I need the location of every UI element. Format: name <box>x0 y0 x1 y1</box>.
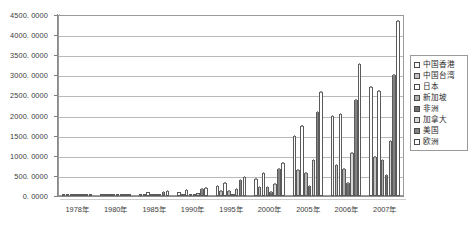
legend-item: 新加坡 <box>414 92 464 103</box>
bar <box>258 187 262 196</box>
bar <box>358 64 362 196</box>
legend-swatch-icon <box>414 139 420 145</box>
bar-top-face <box>244 176 246 178</box>
bar-top-face <box>301 125 303 127</box>
y-axis-tick-label: 4500. 0000 <box>10 11 48 20</box>
bar-top-face <box>167 190 169 192</box>
legend-item-label: 中国台湾 <box>423 70 455 81</box>
bar <box>262 173 266 196</box>
y-axis-tick-label: 1000. 0000 <box>10 151 48 160</box>
bar <box>120 194 124 196</box>
bar <box>243 177 247 196</box>
bar-top-face <box>340 113 342 115</box>
bar-group <box>289 15 327 196</box>
bar <box>308 186 312 196</box>
bar-top-face <box>359 63 361 65</box>
bar <box>239 180 243 196</box>
legend-swatch-icon <box>414 106 420 112</box>
y-axis-tick-label: 2500. 0000 <box>10 91 48 100</box>
bar <box>339 114 343 196</box>
bar <box>381 160 385 196</box>
bar-group <box>327 15 365 196</box>
legend-item: 美国 <box>414 125 464 136</box>
legend-swatch-icon <box>414 84 420 90</box>
bar <box>177 192 181 196</box>
bar <box>227 191 231 196</box>
bar-top-face <box>278 168 280 170</box>
bar <box>204 188 208 196</box>
x-axis-tick-label: 1995年 <box>219 203 242 214</box>
legend-item: 非洲 <box>414 103 464 114</box>
bar-top-face <box>374 156 376 158</box>
bar <box>369 87 373 196</box>
legend-item-label: 中国香港 <box>423 59 455 70</box>
bar-top-face <box>305 172 307 174</box>
legend-item-label: 日本 <box>423 81 439 92</box>
y-axis: 4500. 00004000. 00003500. 00003000. 0000… <box>0 0 58 210</box>
bar <box>312 160 316 196</box>
legend-item: 中国台湾 <box>414 70 464 81</box>
x-axis: 1978年1980年1985年1990年1995年2000年2005年2006年… <box>58 200 404 222</box>
bar <box>266 187 270 196</box>
bar <box>112 194 116 196</box>
bar-top-face <box>397 20 399 22</box>
bar-top-face <box>274 183 276 185</box>
bar <box>346 183 350 196</box>
bar-top-face <box>228 190 230 192</box>
bar-top-face <box>267 186 269 188</box>
bar <box>123 194 127 196</box>
x-axis-tick-label: 2005年 <box>296 203 319 214</box>
bar <box>300 126 304 196</box>
bar-group <box>212 15 250 196</box>
bar <box>154 194 158 196</box>
y-axis-tick-label: 2000. 0000 <box>10 111 48 120</box>
bar-top-face <box>355 99 357 101</box>
bar <box>273 184 277 196</box>
bar-top-face <box>186 189 188 191</box>
bar <box>354 100 358 196</box>
bar <box>216 186 220 196</box>
bar-group <box>173 15 211 196</box>
bar <box>189 194 193 196</box>
bar-top-face <box>336 164 338 166</box>
y-axis-tick-label: 4000. 0000 <box>10 31 48 40</box>
bar <box>100 194 104 196</box>
bar <box>396 21 400 196</box>
bar <box>319 92 323 196</box>
bar-top-face <box>370 86 372 88</box>
bar <box>342 169 346 196</box>
bar <box>269 192 273 196</box>
x-axis-tick-label: 1985年 <box>142 203 165 214</box>
x-axis-tick-label: 2000年 <box>258 203 281 214</box>
y-axis-tick-label: 500. 0000 <box>14 171 48 180</box>
bar-top-face <box>390 140 392 142</box>
bar-top-face <box>259 186 261 188</box>
bar-top-face <box>393 74 395 76</box>
legend-swatch-icon <box>414 95 420 101</box>
bar-top-face <box>297 169 299 171</box>
bar <box>235 189 239 196</box>
bar <box>116 194 120 196</box>
bar <box>166 191 170 196</box>
legend-item: 中国香港 <box>414 59 464 70</box>
bar <box>331 116 335 196</box>
legend-item: 日本 <box>414 81 464 92</box>
bar-top-face <box>217 185 219 187</box>
bar <box>389 141 393 197</box>
bar <box>223 183 227 196</box>
bar-top-face <box>378 90 380 92</box>
bars-layer <box>58 15 404 196</box>
bar-group <box>250 15 288 196</box>
x-axis-tick-label: 2007年 <box>373 203 396 214</box>
bar <box>143 194 147 196</box>
bar-top-face <box>351 152 353 154</box>
bar-top-face <box>270 191 272 193</box>
bar <box>127 194 131 196</box>
bar <box>277 169 281 196</box>
bar <box>185 190 189 196</box>
bar-top-face <box>332 115 334 117</box>
bar <box>181 194 185 196</box>
bar <box>373 157 377 196</box>
bar <box>316 112 320 196</box>
bar-top-face <box>220 190 222 192</box>
